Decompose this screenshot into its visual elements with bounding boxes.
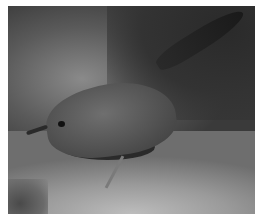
bird-photo: [8, 6, 255, 214]
rock-shadow: [8, 179, 48, 214]
bird-eye: [58, 121, 65, 127]
